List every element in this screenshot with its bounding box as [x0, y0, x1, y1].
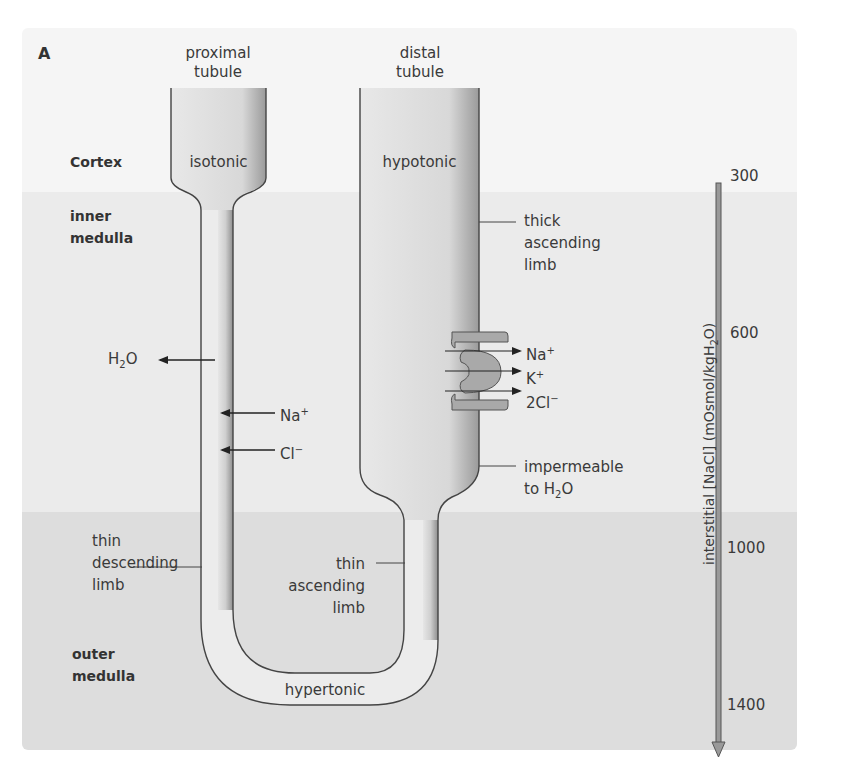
inner-medulla-label: inner medulla [70, 205, 133, 249]
label-line: ascending [524, 232, 601, 254]
cortex-label: Cortex [70, 153, 122, 172]
thick-ascending-limb-label: thick ascending limb [524, 210, 601, 276]
isotonic-label: isotonic [171, 153, 266, 172]
label-line: ascending [280, 575, 365, 597]
tick-1000: 1000 [727, 539, 765, 558]
axis-label: interstitial [NaCl] (mOsmol/kgH2O) [700, 323, 724, 565]
region-line: outer [72, 643, 135, 665]
cotransporter-ions: Na+ K+ 2Cl− [526, 341, 559, 413]
label-line: to H2O [524, 478, 623, 506]
distal-tubule-title: distal tubule [370, 44, 470, 82]
panel-label: A [38, 44, 50, 63]
hypertonic-label: hypertonic [250, 681, 400, 700]
label-line: thick [524, 210, 601, 232]
impermeable-label: impermeable to H2O [524, 456, 623, 506]
thin-ascending-limb-label: thin ascending limb [280, 553, 365, 619]
region-line: inner [70, 205, 133, 227]
title-line: tubule [168, 63, 268, 82]
label-line: thin [280, 553, 365, 575]
chloride-influx-arrow [220, 446, 275, 454]
region-line: medulla [70, 227, 133, 249]
label-line: thin [92, 530, 178, 552]
tick-600: 600 [730, 324, 759, 343]
label-line: descending [92, 552, 178, 574]
sodium-influx-arrow [220, 409, 275, 417]
ion-na: Na+ [526, 341, 559, 365]
h2o-label: H2O [108, 350, 137, 374]
ion-k: K+ [526, 365, 559, 389]
thin-descending-limb-label: thin descending limb [92, 530, 178, 596]
label-line: limb [524, 254, 601, 276]
tick-1400: 1400 [727, 696, 765, 715]
outer-medulla-label: outer medulla [72, 643, 135, 687]
tick-300: 300 [730, 167, 759, 186]
hypotonic-label: hypotonic [360, 153, 479, 172]
ion-cl: 2Cl− [526, 389, 559, 413]
title-line: tubule [370, 63, 470, 82]
title-line: distal [370, 44, 470, 63]
region-line: medulla [72, 665, 135, 687]
proximal-tubule-title: proximal tubule [168, 44, 268, 82]
label-line: limb [280, 597, 365, 619]
label-line: impermeable [524, 456, 623, 478]
label-line: limb [92, 574, 178, 596]
title-line: proximal [168, 44, 268, 63]
na-label: Na+ [280, 402, 309, 426]
cl-label: Cl− [280, 440, 303, 464]
